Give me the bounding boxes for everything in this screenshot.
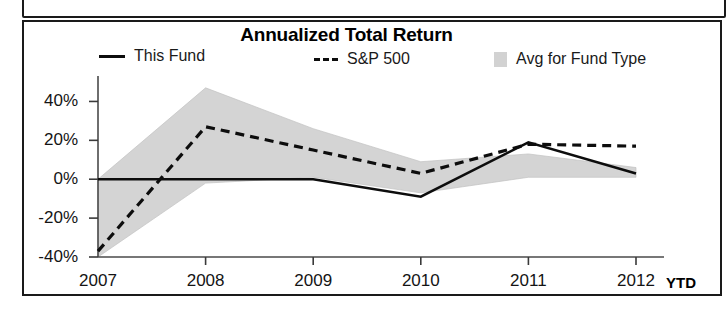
x-tick-label: 2012 (617, 271, 655, 291)
y-tick-label: -40% (22, 247, 78, 267)
x-tick-label: 2007 (79, 271, 117, 291)
chart-svg (24, 22, 724, 298)
y-tick-label: 40% (22, 91, 78, 111)
page-margin-mark (0, 36, 7, 50)
annualized-total-return-chart-panel: Annualized Total Return This Fund S&P 50… (22, 20, 722, 296)
x-tick-label: 2011 (510, 271, 547, 291)
x-tick-label: 2008 (187, 271, 225, 291)
y-tick-label: 20% (22, 130, 78, 150)
y-tick-label: -20% (22, 208, 78, 228)
x-tick-label: 2010 (402, 271, 440, 291)
x-axis-ytd-label: YTD (666, 274, 696, 291)
plot-area: 40%20%0%-20%-40% 20072008200920102011201… (24, 22, 724, 298)
panel-above-chart (22, 0, 726, 18)
x-tick-label: 2009 (294, 271, 332, 291)
y-tick-label: 0% (22, 169, 78, 189)
band-series-avg-fund-type (98, 88, 636, 257)
